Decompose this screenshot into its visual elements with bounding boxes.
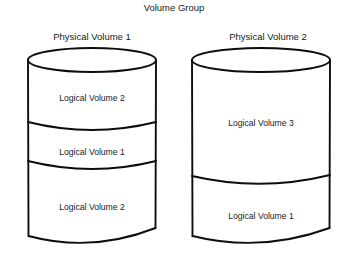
physical-volume-2-label: Physical Volume 2 [229, 31, 307, 42]
volume-group-diagram: Volume Group Physical Volume 1 Physical … [0, 0, 348, 254]
pv2-segment-1-label: Logical Volume 3 [228, 118, 294, 128]
pv1-segment-3-label: Logical Volume 2 [59, 202, 125, 212]
pv1-right-edge [156, 60, 157, 228]
pv1-segment-1-label: Logical Volume 2 [59, 93, 125, 103]
pv1-left-edge [28, 60, 29, 236]
diagram-canvas: Volume Group Physical Volume 1 Physical … [0, 0, 348, 254]
pv2-segment-2-label: Logical Volume 1 [228, 211, 294, 221]
pv2-right-edge [330, 60, 331, 228]
pv1-segment-2-label: Logical Volume 1 [59, 147, 125, 157]
physical-volume-1-cylinder [28, 48, 156, 244]
pv2-left-edge [192, 60, 193, 236]
diagram-title: Volume Group [144, 2, 205, 13]
physical-volume-1-label: Physical Volume 1 [53, 31, 131, 42]
